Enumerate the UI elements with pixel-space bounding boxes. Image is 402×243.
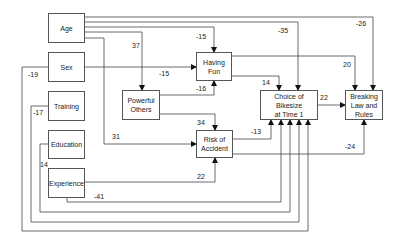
node-sex: Sex	[48, 52, 85, 82]
coef-age-powerful: 37	[132, 42, 140, 50]
node-training: Training	[48, 91, 85, 121]
coef-experience-choice: -41	[94, 193, 104, 201]
coef-age-risk: 31	[112, 133, 120, 141]
coef-age-choice: -35	[278, 27, 288, 35]
coef-education-choice: 14	[40, 161, 48, 169]
node-risk-of-accident-label: Risk of Accident	[201, 135, 228, 153]
node-choice-of-bikesize: Choice of Bikesize at Time 1	[260, 90, 318, 120]
node-having-fun: Having Fun	[196, 52, 232, 81]
coef-powerful-fun: -16	[196, 85, 206, 93]
node-sex-label: Sex	[60, 63, 72, 72]
node-having-fun-label: Having Fun	[203, 58, 225, 76]
coef-age-fun: -15	[196, 33, 206, 41]
node-experience-label: Experience	[49, 179, 84, 188]
node-risk-of-accident: Risk of Accident	[196, 130, 233, 158]
coef-sex-fun: -15	[159, 70, 169, 78]
coef-fun-breaking: 20	[343, 61, 351, 69]
coef-age-breaking: -26	[356, 20, 366, 28]
node-breaking-law-label: Breaking Law and Rules	[350, 92, 378, 119]
coef-training-choice: -17	[33, 109, 43, 117]
node-choice-of-bikesize-label: Choice of Bikesize at Time 1	[273, 92, 305, 119]
coef-choice-breaking: 22	[320, 94, 328, 102]
node-experience: Experience	[48, 168, 85, 198]
node-powerful-others-label: Powerful Others	[127, 96, 155, 114]
node-training-label: Training	[54, 102, 79, 111]
node-breaking-law: Breaking Law and Rules	[345, 90, 383, 120]
coef-risk-choice: -13	[251, 128, 261, 136]
coef-experience-risk: 22	[197, 173, 205, 181]
coef-powerful-risk: 34	[197, 119, 205, 127]
node-education: Education	[48, 130, 85, 159]
coef-risk-breaking: -24	[345, 143, 355, 151]
node-age-label: Age	[60, 24, 72, 33]
coef-fun-choice: 14	[262, 79, 270, 87]
coef-sex-choice: -19	[28, 71, 38, 79]
node-powerful-others: Powerful Others	[122, 90, 160, 120]
node-education-label: Education	[51, 140, 82, 149]
node-age: Age	[48, 13, 85, 43]
